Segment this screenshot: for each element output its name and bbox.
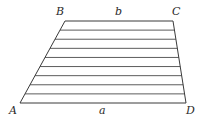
trapezoid-diagram: B b C A a D [0, 0, 202, 117]
vertex-label-c-corner: C [172, 5, 181, 18]
vertex-label-b-corner: B [55, 5, 64, 18]
trapezoid-outline [20, 21, 186, 103]
parallel-lines [25, 30, 185, 94]
side-label-top: b [115, 5, 122, 18]
vertex-label-a-corner: A [8, 104, 17, 117]
vertex-label-d-corner: D [185, 104, 195, 117]
side-label-bottom: a [99, 104, 106, 117]
